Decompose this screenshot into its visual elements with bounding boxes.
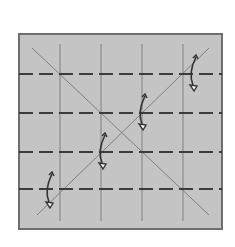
origami-diagram (0, 0, 235, 247)
